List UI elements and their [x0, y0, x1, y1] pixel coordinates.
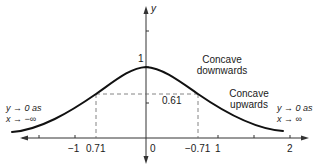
x-tick-label-pos-0-71: −0.71 — [185, 143, 210, 154]
y-tick-label-0-61: 0.61 — [162, 95, 181, 106]
annotation-concave-upwards-line2: upwards — [220, 99, 278, 110]
annotation-concave-downwards-line1: Concave — [188, 54, 256, 65]
x-axis — [20, 135, 309, 141]
plot-canvas — [0, 0, 321, 165]
y-tick-label-1: 1 — [138, 53, 144, 64]
y-axis — [144, 6, 150, 164]
annotation-concave-upwards-line1: Concave — [220, 88, 278, 99]
annotation-left-limit: y → 0 as x → −∞ — [6, 103, 42, 125]
x-tick-label-neg-1: −1 — [68, 143, 79, 154]
annotation-concave-downwards-line2: downwards — [188, 65, 256, 76]
x-tick-label-0: 0 — [150, 143, 156, 154]
annotation-left-limit-line1: y → 0 as — [6, 103, 42, 114]
annotation-concave-upwards: Concave upwards — [220, 88, 278, 110]
x-tick-label-1: 1 — [215, 143, 221, 154]
annotation-left-limit-line2: x → −∞ — [6, 114, 42, 125]
inflection-guides — [96, 94, 198, 138]
annotation-concave-downwards: Concave downwards — [188, 54, 256, 76]
x-axis-right-arrow-icon — [301, 136, 309, 141]
annotation-right-limit: y → 0 as x → ∞ — [277, 103, 313, 125]
bell-curve-diagram: y 1 0.61 −1 0.71 0 −0.71 1 2 Concave dow… — [0, 0, 321, 165]
annotation-right-limit-line1: y → 0 as — [277, 103, 313, 114]
y-axis-label: y — [151, 3, 156, 14]
x-tick-label-neg-0-71: 0.71 — [86, 143, 105, 154]
y-axis-down-arrow-icon — [144, 156, 149, 164]
x-tick-label-2: 2 — [287, 143, 293, 154]
annotation-right-limit-line2: x → ∞ — [277, 114, 313, 125]
x-axis-left-arrow-icon — [20, 136, 28, 141]
y-axis-up-arrow-icon — [144, 6, 149, 14]
